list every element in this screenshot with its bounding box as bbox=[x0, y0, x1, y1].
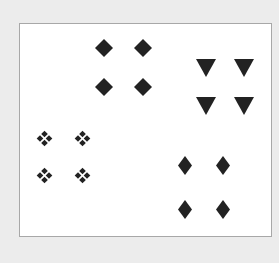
four-dot-cluster-icon bbox=[36, 167, 53, 184]
rotated-square-icon bbox=[95, 78, 113, 96]
tall-diamond-icon bbox=[178, 200, 192, 219]
rotated-square-icon bbox=[134, 39, 152, 57]
four-dot-cluster-icon bbox=[74, 167, 91, 184]
four-dot-cluster-icon bbox=[74, 130, 91, 147]
down-triangle-icon bbox=[196, 97, 216, 115]
tall-diamond-icon bbox=[216, 156, 230, 175]
down-triangle-icon bbox=[234, 59, 254, 77]
tall-diamond-icon bbox=[178, 156, 192, 175]
down-triangle-icon bbox=[234, 97, 254, 115]
rotated-square-icon bbox=[95, 39, 113, 57]
rotated-square-icon bbox=[134, 78, 152, 96]
down-triangle-icon bbox=[196, 59, 216, 77]
tall-diamond-icon bbox=[216, 200, 230, 219]
four-dot-cluster-icon bbox=[36, 130, 53, 147]
